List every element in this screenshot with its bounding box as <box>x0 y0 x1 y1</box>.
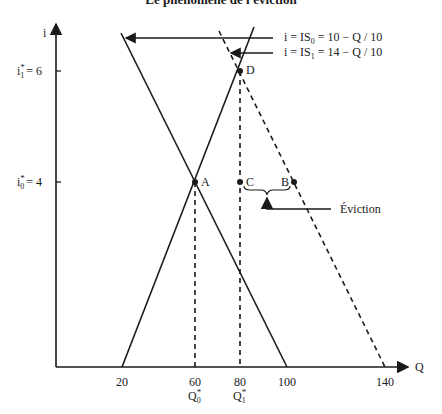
x-tick-80: 80 <box>234 376 246 388</box>
eviction-label: Éviction <box>340 203 381 215</box>
y-axis <box>56 24 61 367</box>
point-label-C: C <box>246 176 254 188</box>
is0-curve <box>121 33 287 367</box>
q1-star-label: Q*1 <box>233 390 248 403</box>
q0-star-label: Q*0 <box>188 390 203 403</box>
y-tick-i0: i*0= 4 <box>17 176 42 189</box>
x-tick-60: 60 <box>189 376 201 388</box>
x-tick-140: 140 <box>376 376 394 388</box>
point-label-D: D <box>246 64 255 76</box>
point-label-A: A <box>201 176 210 188</box>
point-C <box>237 179 243 185</box>
x-tick-100: 100 <box>278 376 296 388</box>
point-A <box>192 179 198 185</box>
lm-curve <box>122 27 254 367</box>
point-D <box>237 68 243 74</box>
y-tick-i1: i*1= 6 <box>17 65 42 78</box>
x-axis-label: Q <box>415 361 424 373</box>
y-axis-label: i <box>43 27 46 39</box>
x-tick-20: 20 <box>116 376 128 388</box>
point-B <box>291 179 297 185</box>
point-label-B: B <box>281 176 289 188</box>
legend-is0: i = IS0 = 10 − Q / 10 <box>284 31 382 43</box>
is1-curve <box>219 31 385 367</box>
legend-is1: i = IS1 = 14 − Q / 10 <box>284 46 382 58</box>
eviction-arrow <box>267 198 331 209</box>
